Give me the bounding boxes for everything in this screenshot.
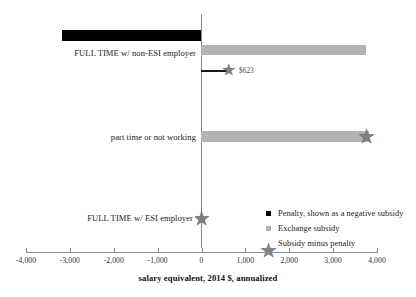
x-axis-tick-label: 3,000 xyxy=(324,256,342,265)
legend-swatch-exchange-subsidy-icon xyxy=(258,226,278,231)
x-axis-title: salary equivalent, 2014 $, annualized xyxy=(0,273,416,283)
x-axis-tick-mark xyxy=(26,248,27,253)
x-axis-tick-mark xyxy=(70,248,71,253)
bar-subsidy-part-time xyxy=(201,131,369,142)
x-axis-tick-mark xyxy=(202,248,203,253)
x-axis-tick-label: 4,000 xyxy=(368,256,386,265)
x-axis-tick-label: -2,000 xyxy=(104,256,124,265)
star-subsidy-minus-penalty-part-time: ★ xyxy=(358,127,375,146)
legend-item-exchange-subsidy: Exchange subsidy xyxy=(258,221,414,236)
chart-figure: ★ $623 FULL TIME w/ non-ESI employer ★ p… xyxy=(0,0,416,297)
x-axis-tick-label: -1,000 xyxy=(148,256,168,265)
legend-item-subsidy-minus-penalty: ★ Subsidy minus penalty xyxy=(258,236,414,251)
star-subsidy-minus-penalty-non-esi: ★ xyxy=(222,63,235,78)
category-label-part-time: part time or not working xyxy=(109,132,198,142)
legend-label-subsidy-minus-penalty: Subsidy minus penalty xyxy=(278,239,355,248)
value-label-623: $623 xyxy=(239,67,254,75)
bar-subsidy-non-esi xyxy=(201,45,366,55)
legend-label-exchange-subsidy: Exchange subsidy xyxy=(278,224,340,233)
x-axis-tick-mark xyxy=(333,248,334,253)
x-axis-tick-mark xyxy=(114,248,115,253)
x-axis-tick-mark xyxy=(245,248,246,253)
x-axis-tick-mark xyxy=(158,248,159,253)
x-axis-tick-mark xyxy=(289,248,290,253)
legend-item-penalty: Penalty, shown as a negative subsidy xyxy=(258,206,414,221)
x-axis-tick-label: 0 xyxy=(200,256,204,265)
x-axis-tick-mark xyxy=(377,248,378,253)
plot-area: ★ $623 FULL TIME w/ non-ESI employer ★ p… xyxy=(0,0,416,248)
legend-label-penalty: Penalty, shown as a negative subsidy xyxy=(278,209,403,218)
x-axis-tick-label: -3,000 xyxy=(60,256,80,265)
bar-penalty-non-esi xyxy=(62,30,201,41)
category-label-esi: FULL TIME w/ ESI employer xyxy=(85,213,195,223)
star-subsidy-minus-penalty-esi: ★ xyxy=(193,209,210,228)
x-axis-tick-label: -4,000 xyxy=(16,256,36,265)
chart-legend: Penalty, shown as a negative subsidy Exc… xyxy=(258,206,414,251)
legend-swatch-penalty-icon xyxy=(258,211,278,216)
x-axis-tick-label: 1,000 xyxy=(237,256,255,265)
category-label-non-esi: FULL TIME w/ non-ESI employer xyxy=(72,48,198,58)
x-axis-tick-label: 2,000 xyxy=(280,256,298,265)
